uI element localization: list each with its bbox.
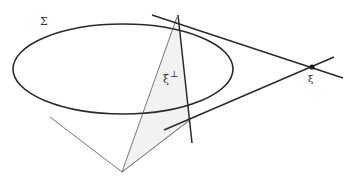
shaded-region xyxy=(122,17,190,172)
ellipse-sigma xyxy=(13,24,233,114)
cone-line-left xyxy=(50,117,122,172)
point-xi xyxy=(309,64,314,69)
label-polar: ξ xyxy=(163,73,169,86)
label-sigma: Σ xyxy=(40,15,48,28)
label-point-xi: ξ xyxy=(308,73,314,84)
label-polar-superscript: ⊥ xyxy=(170,69,178,79)
diagram-canvas: Σ ξ ⊥ ξ xyxy=(0,0,354,182)
